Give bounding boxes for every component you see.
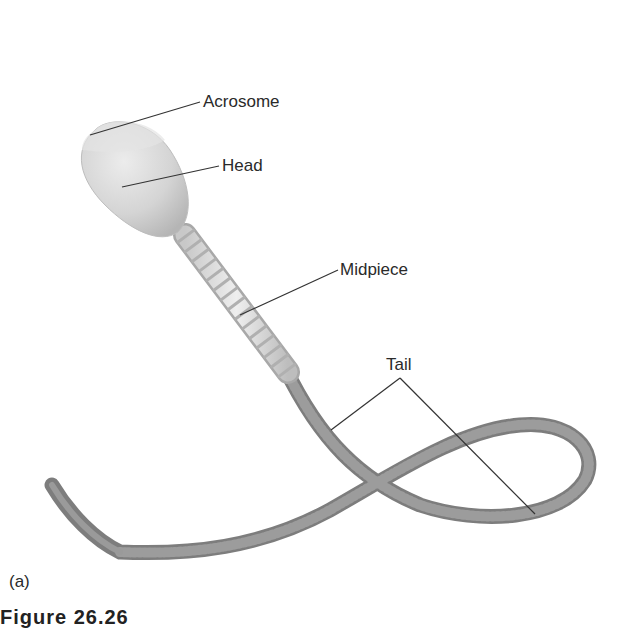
label-acrosome: Acrosome: [203, 93, 280, 110]
midpiece: [185, 235, 288, 372]
tail: [52, 368, 589, 553]
label-tail: Tail: [386, 356, 412, 373]
label-head: Head: [222, 157, 263, 174]
panel-label: (a): [9, 572, 30, 592]
label-midpiece: Midpiece: [340, 261, 408, 278]
figure-caption: Figure 26.26: [0, 606, 129, 629]
head: [81, 121, 188, 237]
